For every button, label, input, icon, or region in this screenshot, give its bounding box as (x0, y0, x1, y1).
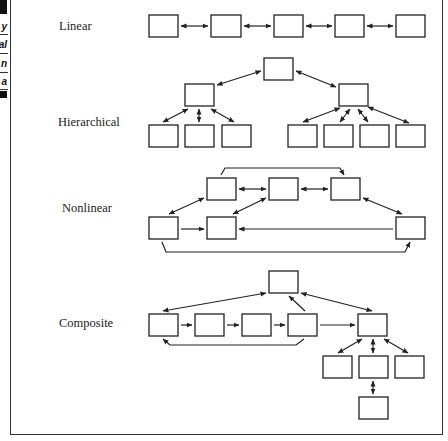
node (185, 125, 214, 147)
node (264, 58, 293, 80)
node (222, 125, 251, 147)
node (269, 178, 298, 200)
node (288, 314, 317, 336)
node (331, 178, 360, 200)
node (359, 397, 388, 419)
composite-structure (149, 271, 424, 419)
nonlinear-structure (149, 168, 425, 252)
node (207, 178, 236, 200)
node (207, 217, 236, 239)
node (149, 125, 178, 147)
node (149, 314, 178, 336)
node (396, 125, 425, 147)
linear-structure (149, 15, 425, 37)
node (269, 271, 298, 293)
node (195, 314, 224, 336)
node (358, 314, 387, 336)
label-linear: Linear (59, 19, 92, 33)
structure-diagram: Linear Hierarchical Nonlinear Composite (0, 0, 448, 441)
label-nonlinear: Nonlinear (62, 201, 113, 215)
node (323, 356, 352, 378)
node (324, 125, 353, 147)
node (396, 217, 425, 239)
node (211, 15, 241, 37)
node (335, 15, 364, 37)
node (360, 125, 389, 147)
node (274, 15, 303, 37)
label-hierarchical: Hierarchical (58, 115, 120, 129)
hierarchical-structure (149, 58, 425, 147)
node (149, 15, 178, 37)
node (288, 125, 317, 147)
label-composite: Composite (59, 316, 114, 330)
node (395, 356, 424, 378)
node (359, 356, 388, 378)
node (339, 84, 368, 106)
node (149, 217, 178, 239)
node (185, 84, 214, 106)
node (396, 15, 425, 37)
node (242, 314, 271, 336)
